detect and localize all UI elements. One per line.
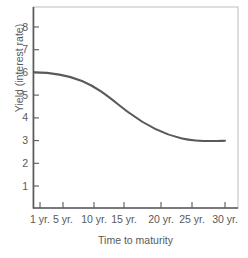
yield-curve-figure: 8 7 6 5 4 3 2 1 1 yr. 5 yr. 10 yr. 15 yr… [0,0,248,258]
y-tick-label-1: 1 [14,181,28,192]
x-tick-label-30yr: 30 yr. [204,214,246,225]
x-axis-title: Time to maturity [33,234,238,246]
y-axis-title: Yield (interest rate) [13,0,25,138]
x-tick-label-15yr: 15 yr. [103,214,145,225]
y-tick-label-2: 2 [14,158,28,169]
plot-frame [33,7,238,208]
